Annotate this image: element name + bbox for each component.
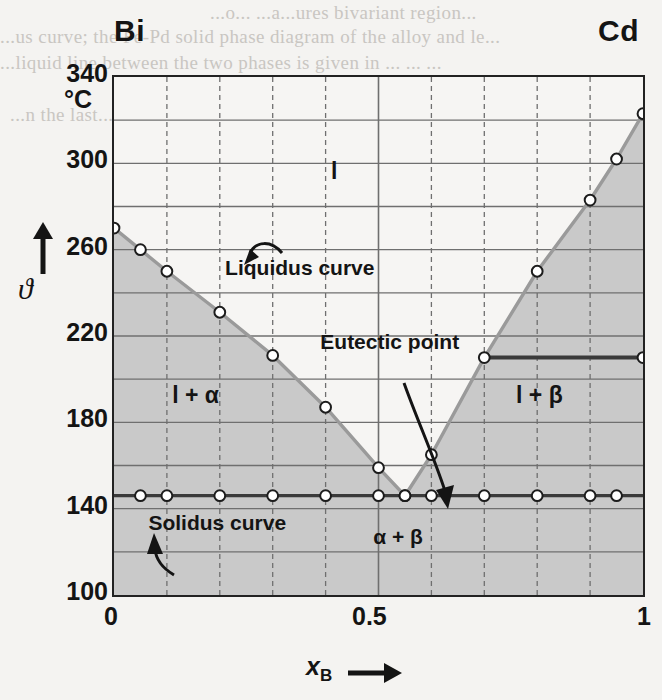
- x-tick-label: 0: [104, 602, 118, 631]
- region-label-liquid-beta: l + β: [516, 382, 563, 409]
- x-axis-arrow-icon: [348, 662, 402, 688]
- figure-page: ...o... ...a...ures bivariant region... …: [0, 0, 662, 700]
- x-axis-symbol: x: [306, 652, 320, 680]
- y-tick-label: 180: [36, 404, 108, 433]
- region-label-liquid-alpha: l + α: [172, 382, 219, 409]
- annotation-eutectic-point: Eutectic point: [320, 330, 459, 354]
- component-label-left: Bi: [114, 14, 145, 48]
- y-tick-label: 220: [36, 318, 108, 347]
- annotation-solidus-curve: Solidus curve: [148, 511, 286, 535]
- region-label-alpha-beta: α + β: [373, 525, 423, 549]
- x-tick-label: 1: [637, 602, 651, 631]
- region-label-liquid: l: [331, 158, 337, 185]
- annotation-liquidus-curve: Liquidus curve: [225, 256, 374, 280]
- component-label-right: Cd: [598, 14, 639, 48]
- y-axis-ticks: 340 300 260 220 180 140 100: [24, 0, 108, 700]
- y-tick-label: 100: [36, 577, 108, 606]
- y-tick-label: 260: [36, 232, 108, 261]
- y-tick-label: 300: [36, 145, 108, 174]
- x-axis-title: xB: [306, 652, 332, 686]
- y-tick-label: 140: [36, 491, 108, 520]
- phase-diagram-plot: l l + α l + β α + β Liquidus curve Eutec…: [112, 75, 645, 597]
- x-axis-subscript: B: [320, 666, 332, 685]
- bleed-text-line: ...o... ...a...ures bivariant region...: [210, 2, 477, 24]
- y-tick-label: 340: [36, 59, 108, 88]
- x-tick-label: 0.5: [352, 602, 387, 631]
